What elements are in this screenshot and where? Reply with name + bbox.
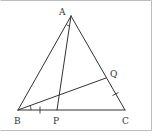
label-Q: Q	[110, 69, 117, 79]
segment-CA	[71, 16, 125, 110]
triangle-diagram: A B P C Q	[0, 0, 159, 137]
segment-AB	[18, 16, 71, 110]
angle-mark-B	[30, 106, 31, 110]
angle-mark-A	[66, 24, 69, 26]
label-C: C	[122, 116, 129, 126]
segment-BQ	[18, 78, 106, 110]
segment-AP	[57, 16, 71, 110]
label-B: B	[14, 116, 21, 126]
label-A: A	[58, 7, 66, 17]
figure-frame	[1, 1, 152, 131]
label-P: P	[53, 116, 59, 126]
